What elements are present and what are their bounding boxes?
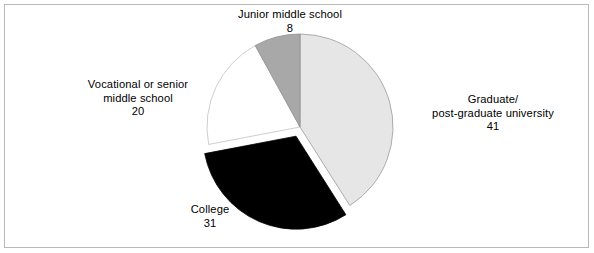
slice-label-college-line1: College — [130, 203, 290, 217]
slice-label-vocational-line1: Vocational or senior — [48, 78, 228, 92]
slice-label-graduate-line1: Graduate/ — [398, 93, 588, 107]
slice-label-college: College 31 — [130, 203, 290, 230]
pie-chart: Graduate/ post-graduate university 41 Ju… — [0, 0, 594, 253]
slice-value-college: 31 — [130, 217, 290, 231]
slice-label-junior: Junior middle school 8 — [110, 8, 470, 35]
slice-label-junior-line1: Junior middle school — [110, 8, 470, 22]
chart-page: Graduate/ post-graduate university 41 Ju… — [0, 0, 594, 253]
slice-label-graduate: Graduate/ post-graduate university 41 — [398, 93, 588, 134]
slice-value-vocational: 20 — [48, 105, 228, 119]
slice-value-junior: 8 — [110, 22, 470, 36]
slice-label-vocational-line2: middle school — [48, 92, 228, 106]
slice-label-graduate-line2: post-graduate university — [398, 107, 588, 121]
slice-value-graduate: 41 — [398, 120, 588, 134]
slice-label-vocational: Vocational or senior middle school 20 — [48, 78, 228, 119]
